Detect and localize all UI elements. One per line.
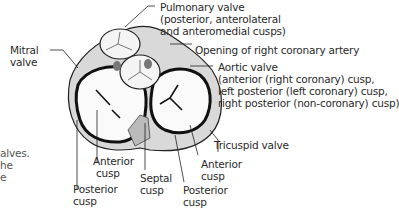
tricuspid-posterior-line2: cusp: [183, 196, 228, 208]
label-septal-cusp: Septal cusp: [140, 172, 172, 196]
label-mitral-anterior-cusp: Anterior cusp: [93, 155, 134, 179]
label-aortic-valve: Aortic valve (anterior (right coronary) …: [218, 61, 399, 109]
aortic-detail-2: left posterior (left coronary) cusp,: [218, 85, 399, 97]
label-mitral-posterior-cusp: Posterior cusp: [73, 183, 118, 207]
fragment-line2: he: [0, 159, 30, 171]
pulmonary-title: Pulmonary valve: [160, 1, 286, 13]
label-coronary-opening: Opening of right coronary artery: [195, 44, 359, 56]
fragment-line1: alves.: [0, 147, 30, 159]
left-edge-text-fragment: alves. he e: [0, 147, 30, 183]
label-tricuspid-posterior-cusp: Posterior cusp: [183, 184, 228, 208]
coronary-opening-right: [144, 59, 152, 69]
mitral-posterior-line1: Posterior: [73, 183, 118, 195]
tricuspid-anterior-line2: cusp: [201, 170, 242, 182]
mitral-title: Mitral: [10, 44, 39, 56]
tricuspid-anterior-line1: Anterior: [201, 158, 242, 170]
label-tricuspid-anterior-cusp: Anterior cusp: [201, 158, 242, 182]
aortic-detail-1: (anterior (right coronary) cusp,: [218, 73, 399, 85]
aortic-title: Aortic valve: [218, 61, 399, 73]
pulmonary-detail-2: and anteromedial cusps): [160, 25, 286, 37]
label-pulmonary-valve: Pulmonary valve (posterior, anterolatera…: [160, 1, 286, 37]
label-mitral-valve: Mitral valve: [10, 44, 39, 68]
tricuspid-posterior-line1: Posterior: [183, 184, 228, 196]
aortic-detail-3: right posterior (non-coronary) cusp): [218, 97, 399, 109]
mitral-title-2: valve: [10, 56, 39, 68]
coronary-opening-left: [113, 61, 121, 71]
mitral-anterior-line1: Anterior: [93, 155, 134, 167]
tricuspid-orifice: [151, 69, 210, 133]
fragment-line3: e: [0, 171, 30, 183]
mitral-posterior-line2: cusp: [73, 195, 118, 207]
label-tricuspid-valve: Tricuspid valve: [214, 139, 289, 151]
septal-line1: Septal: [140, 172, 172, 184]
mitral-anterior-line2: cusp: [93, 167, 134, 179]
septal-line2: cusp: [140, 184, 172, 196]
pulmonary-detail-1: (posterior, anterolateral: [160, 13, 286, 25]
